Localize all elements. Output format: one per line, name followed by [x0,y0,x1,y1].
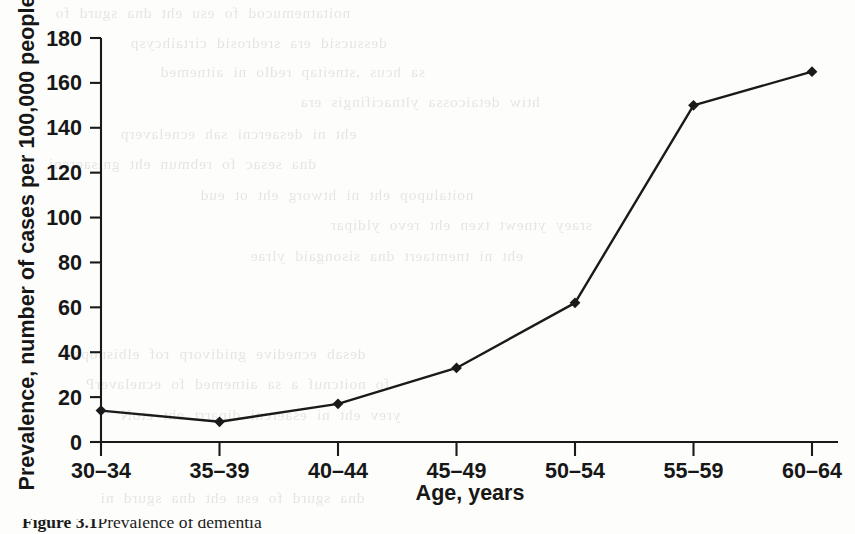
figure-caption-strip: Figure 3.1Prevalence of dementia [22,519,522,534]
x-tick-label: 40–44 [308,459,368,483]
figure-caption: Figure 3.1Prevalence of dementia [22,519,262,533]
chart-canvas: Prevalence, number of cases per 100,000 … [0,0,855,534]
x-tick-label: 45–49 [427,459,487,483]
y-tick-label: 180 [46,27,82,51]
y-tick-label: 100 [46,206,82,230]
figure-caption-text: Prevalence of dementia [98,519,262,532]
line-chart: Prevalence, number of cases per 100,000 … [0,0,855,534]
x-tick-label: 35–39 [190,459,250,483]
x-tick-label: 30–34 [71,459,131,483]
x-axis-ticks: 30–3435–3940–4445–4950–5455–5960–64 [71,442,842,483]
y-tick-label: 60 [58,296,82,320]
scanned-figure-page: noitatnemucod fo esu eht dna sgurd fo de… [0,0,855,534]
data-point-marker [214,416,225,427]
data-point-marker [333,398,344,409]
y-tick-label: 40 [58,341,82,365]
x-axis-title: Age, years [416,481,525,505]
y-tick-label: 80 [58,251,82,275]
x-tick-label: 50–54 [545,459,605,483]
y-tick-label: 120 [46,161,82,185]
x-tick-label: 55–59 [664,459,724,483]
data-point-marker [451,363,462,374]
data-point-marker [807,66,818,77]
y-axis-ticks: 020406080100120140160180 [46,27,101,455]
data-point-marker [570,297,581,308]
y-axis-title: Prevalence, number of cases per 100,000 … [15,0,39,490]
data-point-marker [688,100,699,111]
y-tick-label: 140 [46,116,82,140]
data-series-markers [96,66,818,427]
y-tick-label: 0 [70,431,82,455]
data-point-marker [96,405,107,416]
figure-caption-label: Figure 3.1 [22,519,98,532]
y-tick-label: 160 [46,71,82,95]
x-tick-label: 60–64 [782,459,842,483]
y-tick-label: 20 [58,386,82,410]
